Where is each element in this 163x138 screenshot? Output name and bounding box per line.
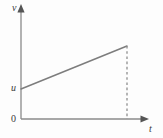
y-axis-label: v bbox=[12, 3, 16, 13]
velocity-line bbox=[21, 46, 127, 89]
arrow-up-icon bbox=[17, 4, 24, 13]
velocity-time-figure: v t u 0 bbox=[0, 0, 163, 138]
graph-canvas bbox=[0, 0, 163, 138]
origin-label: 0 bbox=[11, 114, 16, 124]
arrow-right-icon bbox=[141, 116, 150, 123]
x-axis-label: t bbox=[149, 124, 152, 134]
initial-velocity-label: u bbox=[11, 83, 16, 93]
